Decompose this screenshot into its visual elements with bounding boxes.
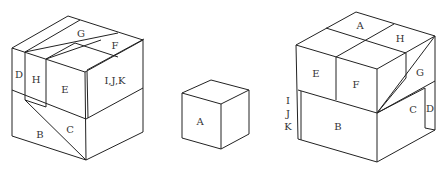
label-K-right: K (284, 121, 292, 132)
label-B: B (36, 129, 43, 140)
left-cube-top-front-edge (12, 40, 143, 72)
left-cube-top-line-2 (25, 33, 118, 52)
left-cube-front-vertical-edge-double (87, 71, 88, 118)
label-E: E (61, 84, 68, 95)
right-cube-d-bottom (425, 128, 435, 130)
center-cube: A (182, 80, 249, 149)
left-cube-diagonal-bc (25, 100, 86, 160)
cube-dissection-diagram: D H G F E I,J,K B C A A H E (0, 0, 444, 171)
label-A-right: A (355, 20, 364, 31)
center-cube-outline (182, 80, 249, 149)
left-cube-front-vertical-edge (85, 72, 86, 160)
label-B-right: B (334, 121, 341, 132)
label-D: D (15, 69, 23, 80)
label-G: G (77, 28, 85, 39)
label-F: F (112, 40, 119, 51)
left-cube: D H G F E I,J,K B C (12, 16, 144, 160)
right-cube-c-top (377, 88, 425, 113)
label-E-right: E (312, 68, 319, 79)
label-I-right: I (286, 95, 290, 106)
right-cube: A H E F G C D B I J K (284, 12, 435, 162)
right-cube-top-grid-2 (336, 24, 394, 57)
label-C: C (66, 124, 74, 135)
label-J-right: J (285, 108, 290, 119)
right-cube-diagonal-g-2 (377, 78, 406, 113)
label-D-right: D (426, 103, 434, 114)
label-G-right: G (416, 67, 424, 78)
right-cube-diagonal-g-1 (377, 36, 435, 113)
left-cube-mid-line (12, 88, 143, 119)
label-H-right: H (396, 33, 405, 44)
label-A-center: A (195, 116, 204, 127)
label-C-right: C (409, 104, 417, 115)
label-H: H (32, 74, 41, 85)
label-F-right: F (353, 79, 360, 90)
center-cube-top-front-edge (182, 90, 249, 104)
left-cube-top-line-5 (46, 40, 101, 59)
label-IJK: I,J,K (104, 75, 126, 86)
right-cube-outline (296, 12, 435, 162)
